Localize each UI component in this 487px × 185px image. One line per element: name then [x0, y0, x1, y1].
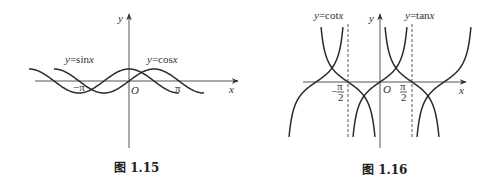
pi-tick-label: π [175, 82, 181, 94]
svg-text:2: 2 [338, 91, 344, 103]
y-axis-label: y [368, 12, 374, 24]
svg-text:2: 2 [401, 91, 407, 103]
pi-half-tick-label: π 2 [400, 80, 407, 103]
neg-pi-tick-label: −π [73, 81, 85, 93]
cos-series-label: y=cosx [146, 53, 178, 65]
figure-1-15: y x O −π π y=sinx y=cosx 图 1.15 [29, 12, 238, 175]
figure-1-16: y x O − π 2 π 2 y=cotx y=tanx 图 1.16 [289, 9, 471, 177]
origin-label: O [131, 84, 139, 96]
x-axis-label: x [228, 83, 234, 95]
origin-label: O [383, 83, 391, 95]
tan-series-label: y=tanx [404, 9, 435, 21]
neg-pi-half-tick-label: − π 2 [331, 80, 344, 103]
figures-canvas: y x O −π π y=sinx y=cosx 图 1.15 y x O − … [0, 0, 487, 185]
cot-series-label: y=cotx [313, 9, 344, 21]
sin-series-label: y=sinx [64, 53, 94, 65]
y-axis-label: y [117, 12, 123, 24]
figure-caption: 图 1.16 [362, 163, 407, 177]
x-axis-label: x [458, 84, 464, 96]
figure-caption: 图 1.15 [114, 161, 159, 175]
